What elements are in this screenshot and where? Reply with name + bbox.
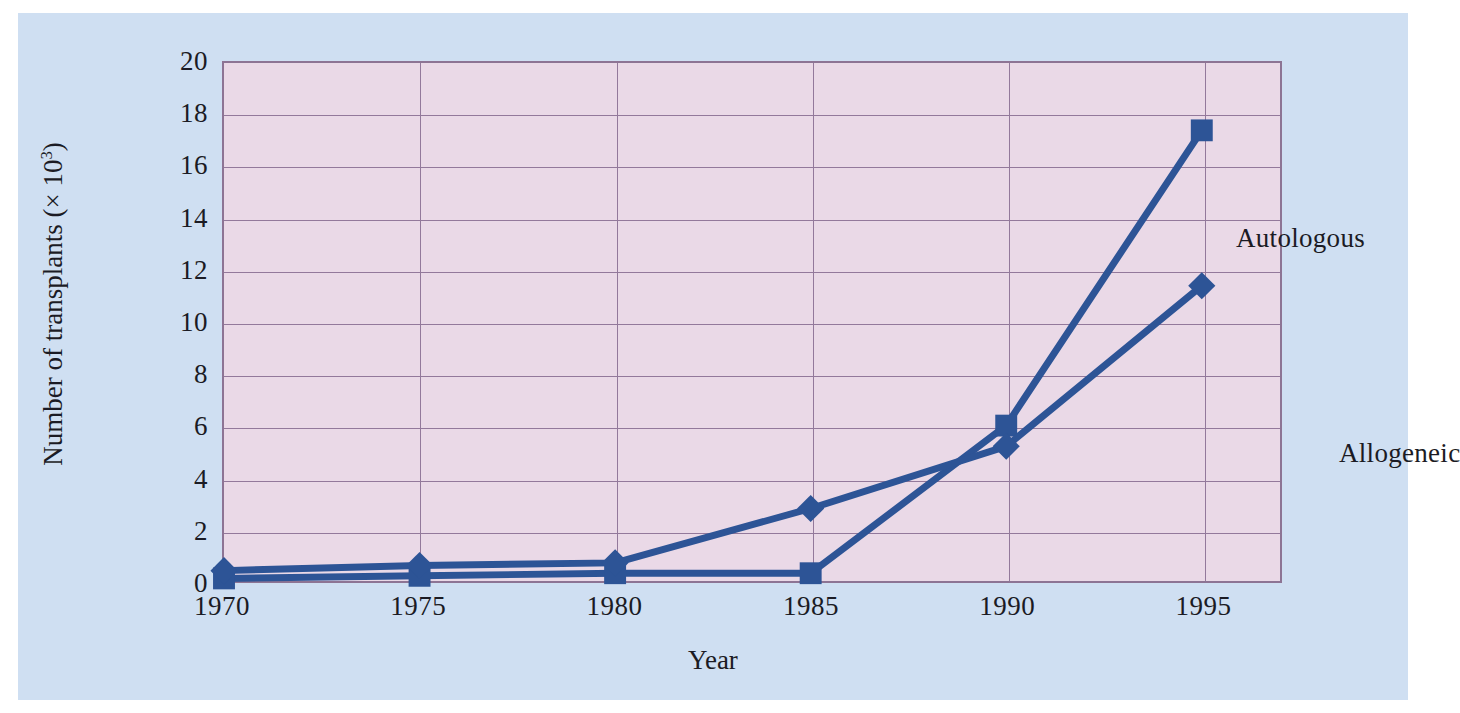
series-label-allogeneic: Allogeneic — [1339, 438, 1460, 469]
x-axis-title: Year — [18, 645, 1408, 676]
marker-square-autologous — [800, 562, 822, 584]
x-axis-tick-label: 1970 — [152, 591, 292, 622]
y-axis-tick-label: 10 — [148, 307, 208, 338]
figure-panel: 02468101214161820 Number of transplants … — [18, 13, 1408, 700]
x-axis-tick-label: 1995 — [1133, 591, 1273, 622]
y-axis-ticks: 02468101214161820 — [136, 61, 208, 583]
marker-diamond-allogeneic — [797, 495, 824, 522]
y-axis-tick-label: 2 — [148, 515, 208, 546]
y-axis-tick-label: 8 — [148, 359, 208, 390]
y-axis-title: Number of transplants (× 103) — [37, 94, 69, 514]
y-axis-tick-label: 12 — [148, 254, 208, 285]
y-axis-tick-label: 18 — [148, 98, 208, 129]
plot-inner — [224, 63, 1280, 581]
series-label-autologous: Autologous — [1236, 223, 1365, 254]
y-axis-title-suffix: ) — [38, 142, 68, 151]
y-axis-tick-label: 14 — [148, 202, 208, 233]
series-line-allogeneic — [224, 286, 1202, 571]
series-line-autologous — [224, 130, 1202, 578]
x-axis-tick-label: 1975 — [348, 591, 488, 622]
series-layer — [224, 63, 1280, 581]
y-axis-title-prefix: Number of transplants (× 10 — [38, 160, 68, 466]
y-axis-tick-label: 6 — [148, 411, 208, 442]
plot-area: Autologous Allogeneic — [222, 61, 1282, 583]
x-axis-ticks: 197019751980198519901995 — [222, 591, 1282, 635]
x-axis-tick-label: 1980 — [545, 591, 685, 622]
y-axis-title-exponent: 3 — [37, 151, 56, 159]
x-axis-tick-label: 1985 — [741, 591, 881, 622]
y-axis-tick-label: 20 — [148, 46, 208, 77]
y-axis-tick-label: 4 — [148, 463, 208, 494]
y-axis-tick-label: 16 — [148, 150, 208, 181]
x-axis-tick-label: 1990 — [937, 591, 1077, 622]
marker-square-autologous — [1191, 119, 1213, 141]
